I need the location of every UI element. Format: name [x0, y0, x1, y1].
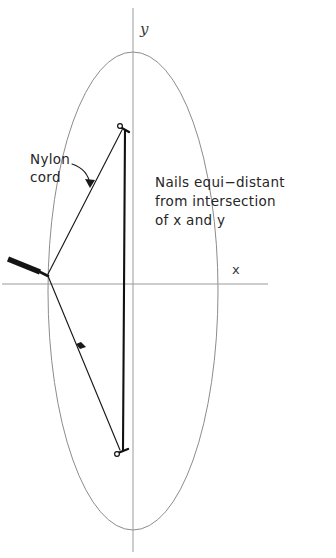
nylon-cord-label-line2: cord — [30, 169, 61, 185]
nails-note-line1: Nails equi−distant — [155, 174, 285, 190]
figure-canvas: y x Nylon cord Nails equi−distant from i… — [0, 0, 336, 558]
upper-nail-head-icon — [118, 124, 123, 129]
nails-note-line3: of x and y — [155, 212, 225, 228]
pencil-tip-icon — [40, 272, 48, 276]
x-axis-label: x — [232, 262, 240, 277]
nails-note-line2: from intersection — [155, 193, 276, 209]
pencil-body — [8, 259, 40, 272]
nylon-cord-label-line1: Nylon — [30, 151, 70, 167]
lower-nail-head-icon — [115, 452, 120, 457]
y-axis-label: y — [139, 20, 149, 38]
ellipse-construction-diagram: y x Nylon cord Nails equi−distant from i… — [0, 0, 336, 558]
cord-segment-lower — [48, 276, 120, 450]
cord-segment-between-nails — [123, 130, 125, 450]
